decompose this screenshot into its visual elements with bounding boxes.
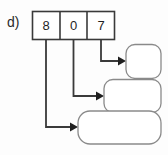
connector-ones-to-top: [101, 40, 119, 61]
arrowhead-hundreds: [70, 123, 78, 132]
connector-tens-to-middle: [74, 40, 98, 96]
arrowhead-ones: [118, 57, 126, 66]
connector-hundreds-to-bottom: [46, 40, 71, 127]
arrowhead-tens: [96, 92, 104, 101]
tens-digit: 0: [70, 18, 77, 33]
place-value-diagram: 8 0 7: [0, 0, 168, 155]
worksheet-figure: d) 8 0 7: [0, 0, 168, 155]
hundreds-digit: 8: [42, 18, 49, 33]
answer-box-top[interactable]: [126, 45, 161, 79]
answer-box-middle[interactable]: [104, 80, 161, 113]
ones-digit: 7: [97, 18, 104, 33]
answer-box-bottom[interactable]: [78, 111, 161, 144]
